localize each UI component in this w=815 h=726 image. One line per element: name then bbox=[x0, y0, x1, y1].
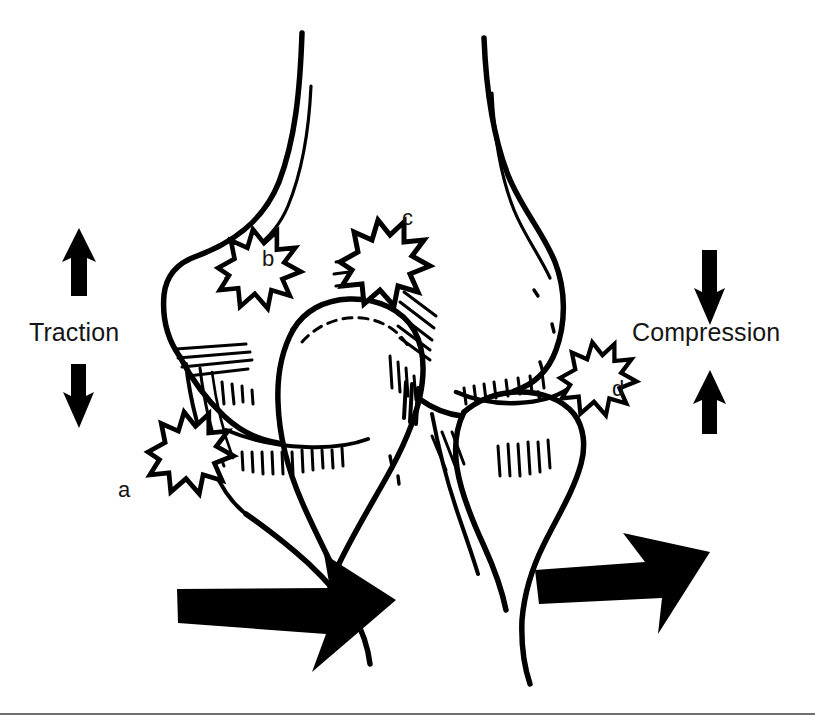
site-label-a: a bbox=[118, 477, 130, 503]
anatomical-illustration bbox=[0, 0, 815, 726]
compression-down-arrow bbox=[694, 250, 725, 325]
humerus-lateral-inner-line bbox=[492, 93, 550, 278]
contour-dash-3 bbox=[534, 290, 538, 296]
hatch-lateral-condyle bbox=[464, 372, 544, 404]
contour-dash-7 bbox=[390, 456, 392, 466]
site-label-d: d bbox=[612, 376, 624, 402]
starburst-c bbox=[340, 220, 430, 306]
trochlea-articular-dashed-line bbox=[302, 318, 408, 346]
contour-dash-4 bbox=[552, 324, 554, 332]
hatch-ligament-insertion bbox=[242, 448, 343, 474]
figure-container: Traction Compression a b c d bbox=[0, 0, 815, 726]
humerus-lateral-outline bbox=[484, 38, 563, 391]
shear-arrow-left bbox=[177, 554, 396, 672]
hatch-radial-head bbox=[498, 440, 550, 476]
site-label-c: c bbox=[402, 205, 413, 231]
site-label-b: b bbox=[262, 246, 274, 272]
radial-neck-medial-outline bbox=[456, 412, 506, 610]
starburst-b bbox=[218, 229, 301, 308]
compression-up-arrow bbox=[693, 370, 726, 434]
hatch-capitellum-contact bbox=[398, 292, 436, 360]
ulna-superior-border bbox=[421, 400, 462, 416]
injury-starbursts bbox=[148, 220, 637, 494]
traction-up-arrow bbox=[62, 228, 96, 296]
traction-down-arrow bbox=[63, 364, 94, 428]
contour-dash-8 bbox=[398, 476, 399, 484]
hatch-medial-condyle-vertical bbox=[222, 382, 253, 404]
trochlea-medial-outline bbox=[278, 330, 338, 578]
compression-label: Compression bbox=[632, 318, 780, 347]
shear-arrow-right bbox=[535, 533, 710, 634]
contour-dash-5 bbox=[540, 362, 543, 372]
contour-dash-6 bbox=[538, 392, 540, 400]
figure-bottom-rule bbox=[0, 713, 815, 715]
starburst-d bbox=[560, 342, 637, 415]
traction-label: Traction bbox=[29, 318, 119, 347]
starburst-a bbox=[148, 412, 234, 494]
humerus-medial-outline bbox=[164, 33, 302, 357]
